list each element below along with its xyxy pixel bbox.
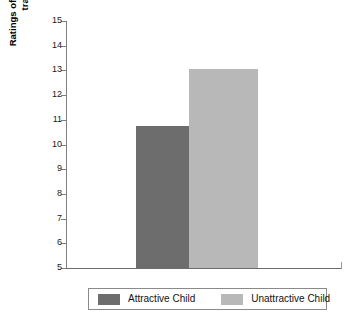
y-tick-label: 7 [57, 212, 62, 225]
x-axis-baseline [66, 268, 342, 269]
legend-label-attractive: Attractive Child [128, 293, 195, 305]
bar-unattractive-child [189, 69, 258, 268]
plot-area: 15141312111098765 [66, 21, 342, 268]
y-axis-line [66, 21, 67, 268]
chart-legend: Attractive Child Unattractive Child [88, 288, 327, 310]
legend-swatch-icon-attractive [98, 294, 120, 305]
bar-chart: Ratings of likelihood of future transgre… [0, 0, 354, 324]
bar-attractive-child [136, 126, 189, 268]
legend-label-unattractive: Unattractive Child [251, 293, 330, 305]
x-axis-end-tick [341, 262, 342, 269]
y-tick-label: 5 [57, 261, 62, 274]
y-axis-title-line-2: transgression [19, 0, 31, 10]
y-tick-label: 13 [52, 63, 62, 76]
y-tick-label: 8 [57, 187, 62, 200]
y-tick-label: 6 [57, 236, 62, 249]
legend-item-unattractive-child: Unattractive Child [221, 293, 330, 305]
y-tick-label: 9 [57, 162, 62, 175]
legend-swatch-icon-unattractive [221, 294, 243, 305]
y-tick-label: 11 [53, 113, 62, 126]
y-axis-title: Ratings of likelihood of future transgre… [2, 0, 36, 74]
y-tick-label: 14 [52, 39, 62, 52]
y-tick-label: 12 [52, 88, 62, 101]
y-tick-label: 15 [52, 14, 62, 27]
legend-item-attractive-child: Attractive Child [98, 293, 195, 305]
y-tick-label: 10 [52, 138, 62, 151]
y-axis-title-line-1: Ratings of likelihood of future [7, 0, 19, 46]
